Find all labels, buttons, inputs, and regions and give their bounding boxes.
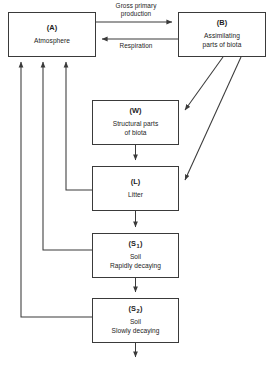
node-soil-slow-code-subscript: 2 bbox=[136, 308, 140, 314]
node-soil-slowly-decaying: (S2) Soil Slowly decaying bbox=[92, 298, 179, 343]
diagram-canvas: (A) Atmosphere (B) Assimilating parts of… bbox=[0, 0, 273, 369]
node-soil-rapid-code-subscript: 1 bbox=[136, 243, 140, 249]
node-soil-rapid-code-base: (S bbox=[128, 239, 136, 248]
edge-label-respiration: Respiration bbox=[100, 42, 172, 50]
node-soil-slow-code: (S2) bbox=[128, 305, 142, 313]
node-atmosphere: (A) Atmosphere bbox=[8, 12, 96, 57]
edge-label-gross-primary-production: Gross primary production bbox=[94, 2, 178, 19]
node-soil-rapid-label: Soil Rapidly decaying bbox=[110, 253, 161, 270]
node-assimilating-label: Assimilating parts of biota bbox=[203, 32, 242, 49]
node-assimilating-code: (B) bbox=[217, 19, 228, 27]
node-structural-code: (W) bbox=[129, 107, 141, 115]
node-soil-rapidly-decaying: (S1) Soil Rapidly decaying bbox=[92, 233, 179, 278]
node-structural-parts-of-biota: (W) Structural parts of biota bbox=[92, 100, 179, 145]
edge-assimilating-to-litter bbox=[185, 57, 241, 180]
node-atmosphere-label: Atmosphere bbox=[34, 37, 70, 46]
node-soil-slow-code-base: (S bbox=[128, 304, 136, 313]
node-litter-label: Litter bbox=[128, 191, 143, 200]
edge-assimilating-to-structural bbox=[185, 57, 223, 110]
node-soil-slow-label: Soil Slowly decaying bbox=[111, 318, 159, 335]
node-soil-rapid-code: (S1) bbox=[128, 240, 142, 248]
node-litter: (L) Litter bbox=[92, 166, 179, 211]
node-litter-code: (L) bbox=[131, 178, 141, 186]
node-atmosphere-code: (A) bbox=[47, 24, 58, 32]
edge-soil-rapid-to-atmosphere bbox=[43, 62, 92, 250]
node-structural-label: Structural parts of biota bbox=[113, 120, 159, 137]
edge-litter-to-atmosphere bbox=[66, 62, 92, 190]
node-assimilating-parts-of-biota: (B) Assimilating parts of biota bbox=[178, 12, 266, 57]
